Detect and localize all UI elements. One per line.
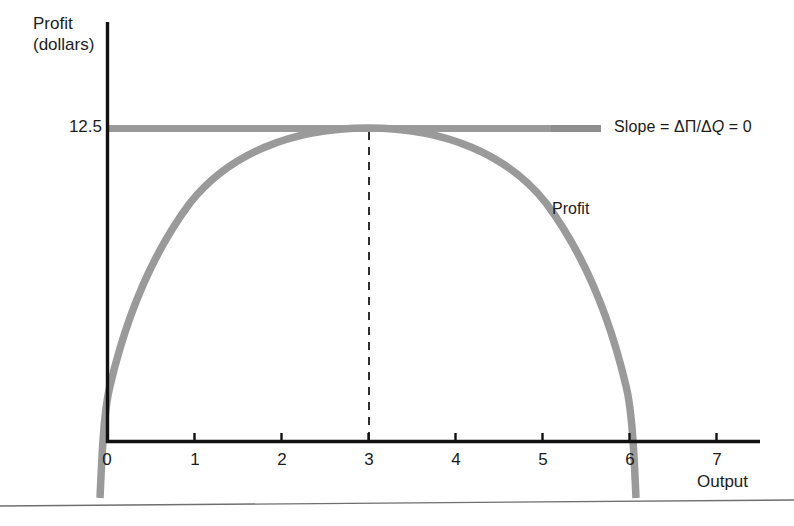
slope-annotation-prefix: Slope = bbox=[614, 118, 674, 135]
slope-annotation-variable-q: Q bbox=[712, 118, 725, 135]
slope-annotation: Slope = ΔΠ/ΔQ = 0 bbox=[614, 117, 752, 137]
x-tick-label-6: 6 bbox=[615, 450, 645, 470]
chart-canvas bbox=[0, 0, 794, 526]
y-axis-title: Profit (dollars) bbox=[33, 14, 94, 55]
profit-curve-label: Profit bbox=[552, 199, 589, 219]
x-tick-label-3: 3 bbox=[354, 450, 384, 470]
slope-annotation-suffix: = 0 bbox=[724, 118, 752, 135]
y-tick-label-12-5: 12.5 bbox=[58, 117, 102, 138]
profit-maximization-chart: Profit (dollars) 12.5 0 1 2 3 4 5 6 7 Ou… bbox=[0, 0, 794, 526]
x-tick-label-7: 7 bbox=[702, 450, 732, 470]
x-tick-label-1: 1 bbox=[180, 450, 210, 470]
page-divider-rule bbox=[0, 500, 794, 506]
x-tick-label-2: 2 bbox=[267, 450, 297, 470]
x-axis-title: Output bbox=[697, 472, 748, 493]
x-tick-label-0: 0 bbox=[92, 450, 122, 470]
x-tick-label-4: 4 bbox=[441, 450, 471, 470]
x-tick-label-5: 5 bbox=[528, 450, 558, 470]
slope-annotation-delta: ΔΠ/Δ bbox=[674, 118, 712, 135]
